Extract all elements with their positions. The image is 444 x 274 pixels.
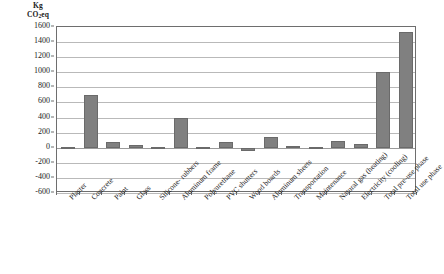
y-axis-tick-label: 1600 [34,22,50,30]
y-axis-unit-label: Kg CO2eq [12,2,64,20]
bar [331,141,345,148]
y-axis-tick-mark [51,192,54,193]
bar [84,95,98,148]
x-axis-tick-labels: PlasterConcretePaintGlassSilicone- rubbe… [56,194,428,274]
y-axis-tick-label: 1400 [34,37,50,45]
y-axis-tick-label: 0 [46,143,50,151]
y-axis-tick-mark [51,176,54,177]
bars-layer [57,27,415,191]
bar [129,145,143,148]
y-axis-tick-label: 200 [38,128,50,136]
y-axis-tick-mark [51,26,54,27]
y-axis-tick-label: 1200 [34,52,50,60]
bar [309,147,323,149]
y-axis-unit-sub: CO2eq [27,10,49,19]
y-axis-unit-eq: eq [41,10,49,19]
bar [61,147,75,149]
y-axis-tick-label: -400 [35,173,50,181]
y-axis-tick-labels: 16001400120010008006004002000-200-400-60… [0,26,54,192]
bar-slot [57,27,80,191]
bar-slot [260,27,283,191]
bar [286,146,300,148]
y-axis-tick-mark [51,41,54,42]
bar-slot [147,27,170,191]
y-axis-tick-mark [51,116,54,117]
bar [399,32,413,148]
y-axis-tick-mark [51,161,54,162]
y-axis-tick-mark [51,146,54,147]
bar [376,72,390,147]
bar-slot [80,27,103,191]
bar [264,137,278,148]
y-axis-tick-mark [51,56,54,57]
y-axis-tick-mark [51,86,54,87]
y-axis-tick-label: -600 [35,188,50,196]
y-axis-tick-mark [51,101,54,102]
y-axis-tick-label: -200 [35,158,50,166]
plot-area [56,26,416,192]
bar [151,147,165,149]
bar-slot [237,27,260,191]
bar [354,144,368,148]
y-axis-tick-label: 800 [38,82,50,90]
y-axis-tick-mark [51,131,54,132]
bar [219,142,233,148]
bar-slot [327,27,350,191]
bar-slot [125,27,148,191]
y-axis-tick-label: 1000 [34,67,50,75]
bar [106,142,120,147]
y-axis-tick-label: 600 [38,97,50,105]
bar [174,118,188,147]
bar-slot [102,27,125,191]
y-axis-tick-mark [51,71,54,72]
y-axis-unit-co: CO [27,10,38,19]
bar [241,148,255,151]
y-axis-tick-label: 400 [38,113,50,121]
bar [196,147,210,149]
